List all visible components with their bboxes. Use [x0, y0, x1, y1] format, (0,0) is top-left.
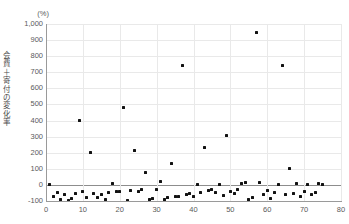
data-point: [118, 190, 121, 193]
data-point: [295, 182, 298, 185]
data-point: [144, 171, 147, 174]
gridline-vertical: [304, 24, 305, 201]
y-axis-line: [46, 24, 47, 202]
x-axis-tick-label: 80: [337, 206, 345, 214]
gridline-vertical: [157, 24, 158, 201]
data-point: [281, 64, 284, 67]
x-axis-line: [46, 201, 342, 202]
data-point: [174, 195, 177, 198]
data-point: [277, 183, 280, 186]
gridline-vertical: [120, 24, 121, 201]
data-point: [196, 183, 199, 186]
y-axis-tick-labels: -10001002003004005006007008009001,000: [0, 0, 43, 224]
data-point: [181, 64, 184, 67]
data-point: [222, 194, 225, 197]
data-point: [288, 167, 291, 170]
data-point: [203, 146, 206, 149]
data-point: [155, 188, 158, 191]
data-point: [81, 190, 84, 193]
x-axis-tick-label: 0: [44, 206, 48, 214]
data-point: [122, 106, 125, 109]
data-point: [170, 162, 173, 165]
data-point: [52, 195, 55, 198]
data-point: [85, 196, 88, 199]
data-point: [214, 191, 217, 194]
data-point: [269, 197, 272, 200]
data-point: [207, 189, 210, 192]
data-point: [177, 195, 180, 198]
data-point: [111, 182, 114, 185]
x-axis-tick-label: 50: [226, 206, 234, 214]
gridline-vertical: [230, 24, 231, 201]
data-point: [251, 196, 254, 199]
data-point: [317, 182, 320, 185]
y-axis-tick-label: 0: [0, 181, 43, 189]
gridline-vertical: [83, 24, 84, 201]
data-point: [166, 196, 169, 199]
data-point: [310, 193, 313, 196]
gridline-vertical: [341, 24, 342, 201]
data-point: [258, 181, 261, 184]
data-point: [151, 197, 154, 200]
data-point: [236, 188, 239, 191]
data-point: [273, 191, 276, 194]
data-point: [89, 151, 92, 154]
data-point: [140, 188, 143, 191]
y-axis-tick-label: 900: [0, 36, 43, 44]
gridline-vertical: [194, 24, 195, 201]
data-point: [321, 183, 324, 186]
data-point: [78, 119, 81, 122]
x-axis-tick-label: 40: [189, 206, 197, 214]
y-axis-tick-label: 700: [0, 68, 43, 76]
x-axis-tick-label: 30: [152, 206, 160, 214]
y-axis-tick-label: 300: [0, 133, 43, 141]
data-point: [303, 190, 306, 193]
data-point: [129, 189, 132, 192]
y-axis-tick-label: 400: [0, 117, 43, 125]
x-axis-tick-label: 70: [300, 206, 308, 214]
data-point: [292, 192, 295, 195]
data-point: [188, 192, 191, 195]
y-axis-tick-label: 500: [0, 100, 43, 108]
data-point: [56, 191, 59, 194]
data-point: [115, 190, 118, 193]
data-point: [299, 195, 302, 198]
data-point: [48, 183, 51, 186]
data-point: [74, 192, 77, 195]
gridline-vertical: [267, 24, 268, 201]
data-point: [96, 196, 99, 199]
y-axis-tick-label: 1,000: [0, 20, 43, 28]
data-point: [284, 193, 287, 196]
scatter-chart: (%) 会費＋寄付の変化率 -1000100200300400500600700…: [0, 0, 349, 224]
data-point: [225, 134, 228, 137]
data-point: [199, 191, 202, 194]
data-point: [262, 193, 265, 196]
data-point: [233, 192, 236, 195]
data-point: [229, 190, 232, 193]
data-point: [159, 180, 162, 183]
data-point: [314, 191, 317, 194]
data-point: [240, 182, 243, 185]
y-axis-tick-label: 800: [0, 52, 43, 60]
data-point: [63, 193, 66, 196]
y-axis-tick-label: 100: [0, 165, 43, 173]
y-axis-tick-label: 600: [0, 84, 43, 92]
data-point: [137, 190, 140, 193]
data-point: [107, 191, 110, 194]
data-point: [100, 193, 103, 196]
x-axis-tick-label: 20: [116, 206, 124, 214]
data-point: [266, 189, 269, 192]
x-axis-tick-label: 10: [79, 206, 87, 214]
plot-area: [46, 24, 341, 201]
y-axis-tick-label: 200: [0, 149, 43, 157]
data-point: [306, 183, 309, 186]
data-point: [133, 149, 136, 152]
data-point: [210, 188, 213, 191]
x-axis-tick-label: 60: [263, 206, 271, 214]
data-point: [218, 183, 221, 186]
data-point: [92, 192, 95, 195]
data-point: [185, 193, 188, 196]
y-axis-tick-label: -100: [0, 197, 43, 205]
data-point: [70, 197, 73, 200]
data-point: [255, 31, 258, 34]
